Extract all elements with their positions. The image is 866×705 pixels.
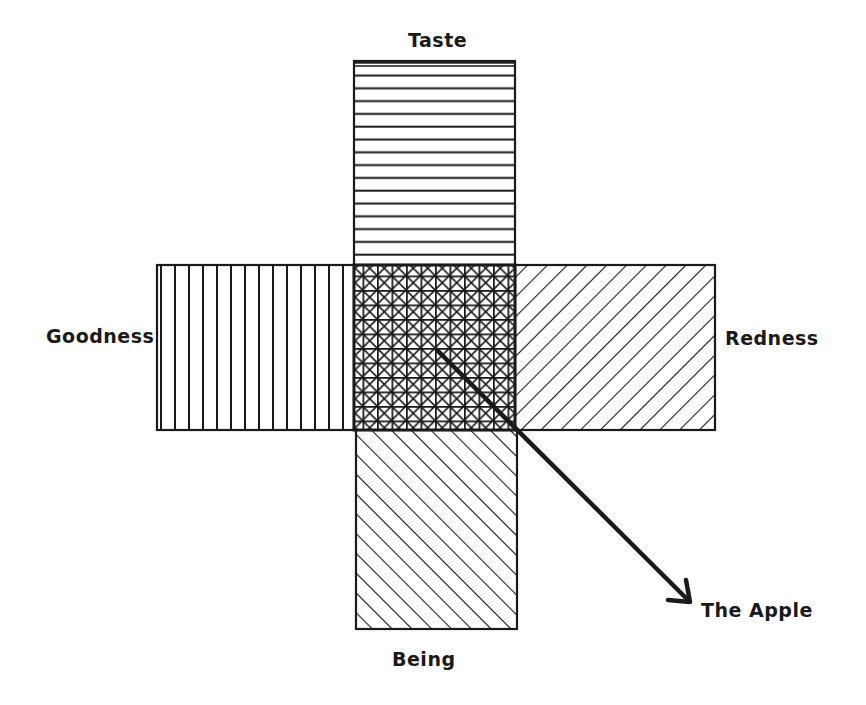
label-redness: Redness	[725, 327, 819, 349]
redness-box	[515, 265, 715, 430]
label-being: Being	[392, 648, 456, 670]
label-the-apple: The Apple	[701, 599, 813, 621]
label-goodness: Goodness	[46, 325, 154, 347]
goodness-box	[157, 265, 354, 430]
label-taste: Taste	[408, 29, 467, 51]
being-box	[356, 430, 517, 629]
taste-box	[354, 61, 515, 265]
